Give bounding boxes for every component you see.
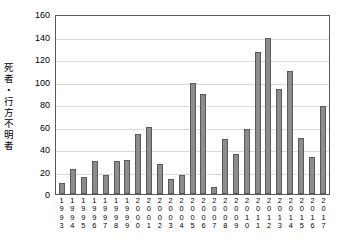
bar [70,169,76,194]
x-label-slot: 2 0 0 2 [154,197,165,252]
bar [233,154,239,195]
bar-slot [165,16,176,194]
x-axis-tick-label: 2 0 1 7 [322,197,326,252]
x-axis-tick-label: 2 0 1 2 [267,197,271,252]
x-axis-tick-label: 1 9 9 5 [81,197,85,252]
x-label-slot: 1 9 9 8 [111,197,122,252]
x-axis-tick-label: 2 0 0 5 [190,197,194,252]
x-axis-tick-labels: 1 9 9 31 9 9 41 9 9 51 9 9 61 9 9 71 9 9… [55,197,330,252]
x-label-slot: 1 9 9 6 [89,197,100,252]
bar [190,83,196,194]
x-axis-tick-label: 2 0 1 6 [311,197,315,252]
x-axis-tick-label: 2 0 1 5 [300,197,304,252]
y-axis-tick-label: 120 [35,55,50,65]
x-label-slot: 1 9 9 3 [56,197,67,252]
bar [255,52,261,194]
bar [287,71,293,194]
y-axis-title: 死 者 ・ 行 方 不 明 者 [2,62,15,152]
bar [265,38,271,194]
bar [124,160,130,194]
x-label-slot: 2 0 1 0 [242,197,253,252]
bar [211,187,217,194]
y-axis-tick-label: 40 [40,145,50,155]
x-axis-tick-label: 1 9 9 9 [125,197,129,252]
bar [179,175,185,194]
y-axis-tick-label: 80 [40,100,50,110]
x-label-slot: 1 9 9 9 [122,197,133,252]
bar [92,161,98,194]
x-axis-tick-label: 2 0 0 6 [201,197,205,252]
bar [298,138,304,194]
x-axis-tick-label: 2 0 0 0 [136,197,140,252]
y-axis-tick-label: 140 [35,33,50,43]
x-axis-tick-label: 1 9 9 4 [70,197,74,252]
bar [146,127,152,195]
bar-chart: 死 者 ・ 行 方 不 明 者 020406080100120140160 1 … [0,0,340,252]
y-axis-tick-label: 100 [35,78,50,88]
x-label-slot: 2 0 0 4 [176,197,187,252]
bar [222,139,228,194]
bar [168,179,174,194]
bar [103,175,109,194]
bar-slot [241,16,252,194]
bar-slot [285,16,296,194]
bar [309,157,315,194]
x-label-slot: 1 9 9 5 [78,197,89,252]
x-label-slot: 2 0 1 4 [285,197,296,252]
bar [135,134,141,194]
bar-slot [198,16,209,194]
y-axis-tick-label: 160 [35,10,50,20]
x-axis-tick-label: 2 0 1 3 [278,197,282,252]
bar [157,164,163,194]
x-axis-tick-label: 1 9 9 7 [103,197,107,252]
y-axis-tick-label: 60 [40,123,50,133]
x-axis-tick-label: 1 9 9 3 [59,197,63,252]
bar [244,129,250,194]
x-axis-tick-label: 2 0 1 4 [289,197,293,252]
bar-slot [252,16,263,194]
bar [200,94,206,194]
bar-slot [90,16,101,194]
x-axis-tick-label: 2 0 1 1 [256,197,260,252]
bar-slot [209,16,220,194]
x-axis-tick-label: 1 9 9 8 [114,197,118,252]
bar [59,183,65,194]
bar-slot [274,16,285,194]
bar-slot [100,16,111,194]
x-axis-tick-label: 2 0 0 4 [180,197,184,252]
x-label-slot: 2 0 1 1 [253,197,264,252]
x-label-slot: 2 0 0 9 [231,197,242,252]
x-label-slot: 1 9 9 7 [100,197,111,252]
bar [320,106,326,194]
bar-slot [317,16,328,194]
y-axis-tick-label: 20 [40,168,50,178]
x-label-slot: 2 0 0 6 [198,197,209,252]
x-label-slot: 2 0 1 7 [318,197,329,252]
bar-slot [176,16,187,194]
bar-slot [296,16,307,194]
x-axis-tick-label: 2 0 0 1 [147,197,151,252]
x-axis-tick-label: 2 0 0 3 [169,197,173,252]
x-label-slot: 2 0 0 0 [132,197,143,252]
x-label-slot: 2 0 0 3 [165,197,176,252]
x-axis-tick-label: 2 0 1 0 [245,197,249,252]
bar-slot [111,16,122,194]
x-axis-tick-label: 2 0 0 9 [234,197,238,252]
bar-slot [133,16,144,194]
x-label-slot: 2 0 1 2 [264,197,275,252]
x-label-slot: 2 0 1 6 [307,197,318,252]
bar [81,177,87,194]
bar-slot [122,16,133,194]
x-label-slot: 2 0 1 3 [274,197,285,252]
plot-area [55,15,330,195]
bar-slot [220,16,231,194]
x-axis-tick-label: 1 9 9 6 [92,197,96,252]
bar-slot [79,16,90,194]
bar [276,89,282,194]
bar-series [56,16,329,194]
bar-slot [187,16,198,194]
x-label-slot: 1 9 9 4 [67,197,78,252]
y-axis-tick-label: 0 [45,190,50,200]
bar-slot [144,16,155,194]
x-label-slot: 2 0 0 5 [187,197,198,252]
